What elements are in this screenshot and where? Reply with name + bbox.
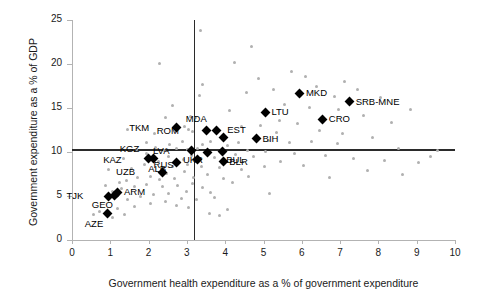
background-data-point — [149, 175, 152, 178]
background-data-point — [133, 205, 136, 208]
background-data-point — [310, 140, 313, 143]
background-data-point — [126, 198, 129, 201]
y-tick — [67, 240, 72, 241]
country-label-geo: GEO — [92, 200, 113, 210]
country-label-ltu: LTU — [271, 107, 288, 117]
background-data-point — [171, 104, 174, 107]
x-tick-label: 3 — [172, 247, 202, 258]
x-tick-label: 7 — [325, 247, 355, 258]
country-label-arm: ARM — [124, 187, 145, 197]
x-tick-label: 2 — [134, 247, 164, 258]
background-data-point — [111, 216, 114, 219]
background-data-point — [158, 62, 161, 65]
background-data-point — [245, 91, 248, 94]
background-data-point — [341, 132, 344, 135]
x-tick — [378, 240, 379, 244]
country-label-uzb: UZB — [116, 167, 135, 177]
y-tick — [67, 152, 72, 153]
background-data-point — [222, 177, 225, 180]
country-label-cro: CRO — [329, 114, 350, 124]
background-data-point — [176, 184, 179, 187]
background-data-point — [401, 173, 404, 176]
y-tick-label: 25 — [34, 13, 62, 24]
background-data-point — [213, 196, 216, 199]
background-data-point — [336, 142, 339, 145]
background-data-point — [185, 190, 188, 193]
background-data-point — [180, 197, 183, 200]
background-data-point — [192, 176, 195, 179]
background-data-point — [283, 103, 286, 106]
y-tick-label: 15 — [34, 101, 62, 112]
y-axis-title: Government expenditure as a % of GDP — [22, 2, 44, 262]
x-tick-label: 1 — [95, 247, 125, 258]
x-tick — [72, 240, 73, 244]
x-tick-label: 9 — [402, 247, 432, 258]
x-tick-label: 6 — [287, 247, 317, 258]
y-tick-label: 20 — [34, 57, 62, 68]
background-data-point — [167, 192, 170, 195]
reference-line-vertical-median — [194, 20, 196, 240]
x-tick — [110, 240, 111, 244]
x-tick-label: 0 — [57, 247, 87, 258]
background-data-point — [199, 29, 202, 32]
background-data-point — [191, 182, 194, 185]
y-tick — [67, 64, 72, 65]
background-data-point — [208, 212, 211, 215]
x-tick — [149, 240, 150, 244]
y-tick — [67, 20, 72, 21]
x-tick-label: 5 — [249, 247, 279, 258]
background-data-point — [198, 94, 201, 97]
background-data-point — [246, 149, 249, 152]
x-tick-label: 10 — [440, 247, 470, 258]
background-data-point — [175, 204, 178, 207]
background-data-point — [98, 210, 101, 213]
x-tick — [187, 240, 188, 244]
country-label-rom: ROM — [157, 126, 179, 136]
y-tick-label: 0 — [34, 233, 62, 244]
y-tick — [67, 108, 72, 109]
x-tick — [225, 240, 226, 244]
country-label-tjk: TJK — [67, 191, 84, 201]
x-tick-label: 4 — [210, 247, 240, 258]
background-data-point — [145, 141, 148, 144]
background-data-point — [366, 169, 369, 172]
background-data-point — [152, 193, 155, 196]
background-data-point — [417, 161, 420, 164]
country-label-mkd: MKD — [306, 88, 327, 98]
x-tick — [455, 240, 456, 244]
background-data-point — [308, 106, 311, 109]
background-data-point — [231, 181, 234, 184]
background-data-point — [125, 179, 128, 182]
y-tick-label: 10 — [34, 145, 62, 156]
x-axis-title: Government health expenditure as a % of … — [72, 277, 455, 289]
y-tick-label: 5 — [34, 189, 62, 200]
country-label-est: EST — [227, 125, 245, 135]
background-data-point — [390, 121, 393, 124]
scatter-chart: Government expenditure as a % of GDP 012… — [0, 0, 483, 302]
country-label-lva: LVA — [153, 146, 170, 156]
background-data-point — [107, 168, 110, 171]
background-data-point — [383, 159, 386, 162]
x-tick — [264, 240, 265, 244]
background-data-point — [181, 140, 184, 143]
background-data-point — [288, 141, 291, 144]
country-label-aze: AZE — [85, 219, 103, 229]
background-data-point — [143, 163, 146, 166]
background-data-point — [145, 183, 148, 186]
x-tick — [340, 240, 341, 244]
background-data-point — [343, 80, 346, 83]
background-data-point — [263, 165, 266, 168]
country-label-mda: MDA — [186, 114, 207, 124]
background-data-point — [264, 150, 267, 153]
y-axis-line — [72, 20, 73, 241]
country-label-kaz: KAZ — [103, 155, 121, 165]
background-data-point — [304, 75, 307, 78]
country-label-blr: BLR — [229, 157, 247, 167]
background-data-point — [397, 147, 400, 150]
background-data-point — [272, 88, 275, 91]
background-data-point — [278, 119, 281, 122]
background-data-point — [362, 114, 365, 117]
country-label-kgz: KGZ — [120, 144, 140, 154]
x-tick-label: 8 — [363, 247, 393, 258]
background-data-point — [333, 95, 336, 98]
